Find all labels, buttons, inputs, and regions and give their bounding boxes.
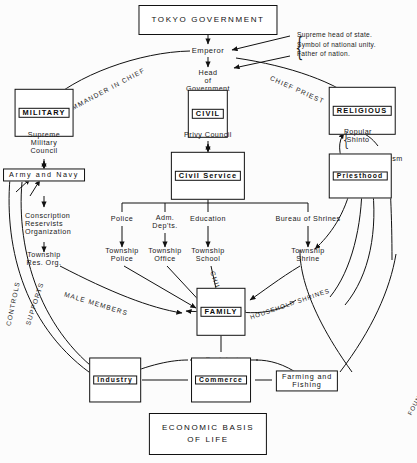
civil-service-box[interactable]: Civil Service (171, 152, 245, 200)
commerce-label: Commerce (195, 375, 247, 385)
priesthood-box[interactable]: Priesthood (329, 153, 392, 198)
industry-label: Industry (93, 375, 137, 385)
dept-bureau-of-shrines-label: Bureau of Shrines (275, 215, 340, 223)
supreme-military-council-label: Supreme Military Council (28, 131, 60, 155)
diagram-canvas: TOKYO GOVERNMENT Emperor Head of Governm… (0, 0, 417, 463)
industry-box[interactable]: Industry (89, 357, 141, 402)
army-and-navy-box[interactable]: Army and Navy (3, 168, 85, 181)
conscription-label: Conscription Reservists Organization (25, 212, 71, 236)
commerce-box[interactable]: Commerce (191, 357, 251, 402)
family-label: FAMILY (200, 307, 241, 317)
township-school-label: Township School (191, 247, 225, 263)
township-res-org-label: Township Res. Org. (27, 251, 62, 267)
township-shrine-label: Township Shrine (291, 247, 325, 263)
privy-council-label: Privy Council (184, 131, 232, 139)
branch-military-label: MILITARY (19, 108, 70, 118)
economic-basis-panel: ECONOMIC BASIS OF LIFE (149, 413, 267, 455)
dept-education-label: Education (190, 215, 226, 223)
township-police-label: Township Police (105, 247, 139, 263)
dept-adm-label: Adm. Dep'ts. (152, 214, 177, 230)
tokyo-government-panel: TOKYO GOVERNMENT (138, 5, 277, 35)
priesthood-label: Priesthood (333, 171, 388, 181)
shinto-brace-icon: { (343, 130, 349, 149)
township-office-label: Township Office (148, 247, 182, 263)
family-box[interactable]: FAMILY (196, 288, 245, 336)
emperor-label: Emperor (192, 47, 224, 56)
dept-police-label: Police (111, 215, 133, 223)
emperor-attributes-note: Supreme head of state. Symbol of nationa… (297, 30, 376, 59)
branch-religious-label: RELIGIOUS (333, 106, 392, 116)
farming-and-fishing-box[interactable]: Farming and Fishing (276, 370, 338, 391)
branch-civil-label: CIVIL (192, 109, 224, 119)
civil-service-label: Civil Service (175, 171, 241, 181)
